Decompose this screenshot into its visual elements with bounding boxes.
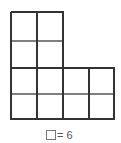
l-shaped-grid-figure (0, 0, 121, 125)
unit-square-icon (46, 130, 56, 140)
grid-outline-lines (11, 12, 114, 119)
legend-text: = 6 (57, 129, 73, 141)
legend: = 6 (46, 128, 73, 142)
